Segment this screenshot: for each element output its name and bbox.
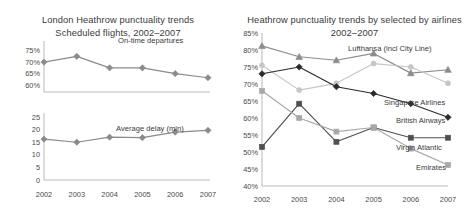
average-delay-plot: 0510152025200220032004200520062007Averag… [32, 113, 216, 199]
data-point-on-time-departures-2006 [172, 71, 178, 77]
average-delay-ytick-4: 20 [32, 125, 40, 134]
data-point-average-delay-min-2005 [139, 135, 145, 141]
left-chart-panel: London Heathrow punctuality trends Sched… [0, 0, 236, 216]
airlines-punctuality-plot: 40%45%50%55%60%65%70%75%80%85%2002200320… [243, 29, 456, 204]
airlines-punctuality-ytick-2: 50% [243, 148, 258, 157]
airlines-punctuality-ytick-6: 70% [243, 80, 258, 89]
on-time-departures-ytick-0: 60% [25, 81, 40, 90]
average-delay-xtick-4: 2006 [167, 190, 183, 199]
left-chart-svg: 60%65%70%75%On-time departures0510152025… [0, 0, 236, 216]
average-delay-xtick-1: 2003 [69, 190, 85, 199]
average-delay-ytick-2: 10 [32, 150, 40, 159]
data-point-on-time-departures-2003 [74, 53, 80, 59]
right-chart-svg: 40%45%50%55%60%65%70%75%80%85%2002200320… [236, 0, 473, 216]
data-point-singapore-airlines-2002 [260, 63, 265, 68]
average-delay-xtick-0: 2002 [36, 190, 52, 199]
right-chart-panel: Heathrow punctuality trends by selected … [236, 0, 473, 216]
on-time-departures-axis [44, 41, 210, 92]
airlines-punctuality-xtick-0: 2002 [254, 195, 270, 204]
data-point-average-delay-min-2002 [41, 136, 47, 142]
average-delay-xtick-2: 2004 [101, 190, 117, 199]
data-point-british-airways-2005 [371, 90, 377, 96]
on-time-departures-ytick-1: 65% [25, 69, 40, 78]
on-time-departures-ytick-2: 70% [25, 58, 40, 67]
series-label-virgin-atlantic: Virgin Atlantic [396, 143, 442, 152]
data-point-emirates-2003 [297, 116, 302, 121]
airlines-punctuality-xtick-2: 2004 [328, 195, 344, 204]
data-point-emirates-2004 [334, 129, 339, 134]
data-point-average-delay-min-2004 [107, 134, 113, 140]
average-delay-ytick-3: 15 [32, 138, 40, 147]
series-line-virgin-atlantic [262, 104, 448, 147]
airlines-punctuality-xtick-3: 2005 [365, 195, 381, 204]
average-delay-series-label: Average delay (min) [116, 124, 184, 133]
data-point-on-time-departures-2007 [205, 75, 211, 81]
on-time-departures-plot: 60%65%70%75%On-time departures [25, 36, 211, 92]
airlines-punctuality-ytick-3: 55% [243, 131, 258, 140]
average-delay-xtick-5: 2007 [200, 190, 216, 199]
on-time-departures-ytick-3: 75% [25, 46, 40, 55]
series-label-british-airways: British Airways [396, 116, 446, 125]
data-point-virgin-atlantic-2006 [408, 135, 413, 140]
series-label-emirates: Emirates [416, 163, 446, 172]
airlines-punctuality-ytick-1: 45% [243, 165, 258, 174]
data-point-emirates-2005 [371, 125, 376, 130]
data-point-virgin-atlantic-2003 [297, 101, 302, 106]
average-delay-ytick-5: 25 [32, 113, 40, 122]
data-point-virgin-atlantic-2004 [334, 139, 339, 144]
series-line-british-airways [262, 67, 448, 117]
data-point-virgin-atlantic-2002 [260, 144, 265, 149]
airlines-punctuality-xtick-1: 2003 [291, 195, 307, 204]
data-point-on-time-departures-2004 [107, 65, 113, 71]
data-point-emirates-2002 [260, 88, 265, 93]
series-label-lufthansa-incl-city-line: Lufthansa (incl City Line) [348, 44, 432, 53]
data-point-lufthansa-incl-city-line-2002 [259, 43, 266, 49]
data-point-virgin-atlantic-2007 [446, 135, 451, 140]
average-delay-ytick-0: 0 [36, 176, 40, 185]
data-point-singapore-airlines-2003 [297, 88, 302, 93]
average-delay-ytick-1: 5 [36, 163, 40, 172]
airlines-punctuality-ytick-4: 60% [243, 114, 258, 123]
data-point-average-delay-min-2003 [74, 139, 80, 145]
data-point-singapore-airlines-2007 [446, 81, 451, 86]
airlines-punctuality-ytick-0: 40% [243, 182, 258, 191]
on-time-departures-series-label: On-time departures [118, 36, 184, 45]
data-point-on-time-departures-2002 [41, 59, 47, 65]
average-delay-xtick-3: 2005 [134, 190, 150, 199]
airlines-punctuality-xtick-4: 2006 [403, 195, 419, 204]
data-point-average-delay-min-2007 [205, 127, 211, 133]
data-point-british-airways-2003 [296, 64, 302, 70]
airlines-punctuality-ytick-5: 65% [243, 97, 258, 106]
data-point-emirates-2007 [446, 162, 451, 167]
data-point-on-time-departures-2005 [139, 65, 145, 71]
airlines-punctuality-xtick-5: 2007 [440, 195, 456, 204]
data-point-british-airways-2007 [445, 114, 451, 120]
airlines-punctuality-ytick-9: 85% [243, 29, 258, 38]
data-point-british-airways-2002 [259, 71, 265, 77]
data-point-singapore-airlines-2006 [408, 65, 413, 70]
data-point-singapore-airlines-2005 [371, 61, 376, 66]
series-label-singapore-airlines: Singapore Airlines [384, 98, 445, 107]
airlines-punctuality-ytick-7: 75% [243, 63, 258, 72]
series-line-on-time-departures [44, 56, 208, 77]
series-line-singapore-airlines [262, 64, 448, 91]
airlines-punctuality-ytick-8: 80% [243, 46, 258, 55]
